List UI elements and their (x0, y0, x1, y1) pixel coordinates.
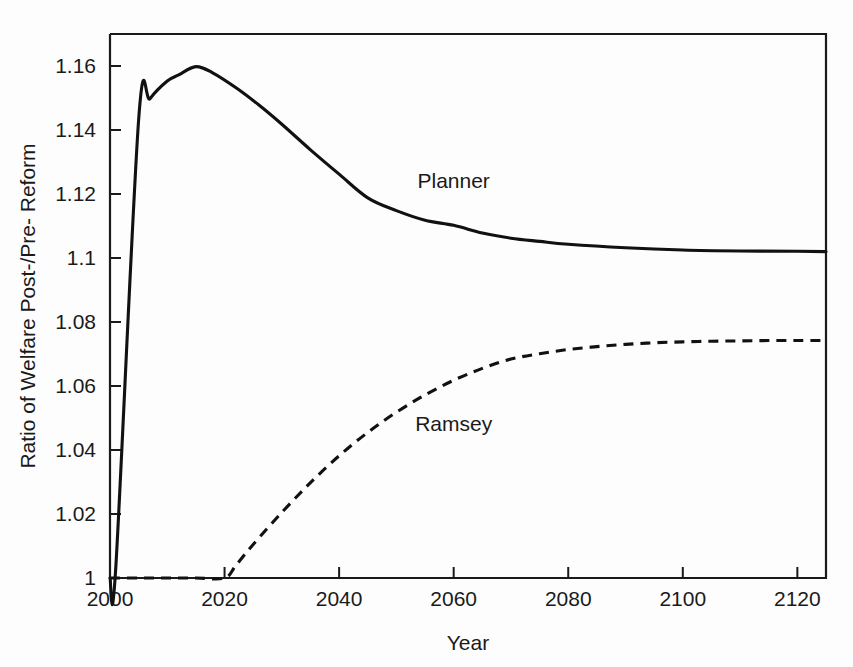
y-axis-tick-labels: 11.021.041.061.081.11.121.141.16 (55, 54, 96, 589)
y-tick-label-1: 1 (84, 566, 96, 589)
y-tick-label-1.1: 1.1 (67, 246, 96, 269)
y-tick-label-1.02: 1.02 (55, 502, 96, 525)
series-annotation-ramsey: Ramsey (415, 412, 493, 435)
figure-container: 11.021.041.061.081.11.121.141.16 2000202… (0, 0, 853, 667)
x-tick-label-2040: 2040 (316, 587, 363, 610)
series-annotation-planner: Planner (417, 169, 489, 192)
x-tick-label-2060: 2060 (430, 587, 477, 610)
x-tick-label-2020: 2020 (201, 587, 248, 610)
y-tick-label-1.16: 1.16 (55, 54, 96, 77)
y-tick-label-1.06: 1.06 (55, 374, 96, 397)
welfare-ratio-line-chart: 11.021.041.061.081.11.121.141.16 2000202… (0, 0, 853, 667)
x-tick-label-2080: 2080 (545, 587, 592, 610)
x-axis-title: Year (447, 631, 489, 654)
y-axis-title: Ratio of Welfare Post-/Pre- Reform (16, 143, 39, 468)
y-tick-label-1.12: 1.12 (55, 182, 96, 205)
y-tick-label-1.08: 1.08 (55, 310, 96, 333)
x-tick-label-2100: 2100 (659, 587, 706, 610)
y-tick-label-1.04: 1.04 (55, 438, 96, 461)
x-tick-label-2120: 2120 (774, 587, 821, 610)
y-tick-label-1.14: 1.14 (55, 118, 96, 141)
